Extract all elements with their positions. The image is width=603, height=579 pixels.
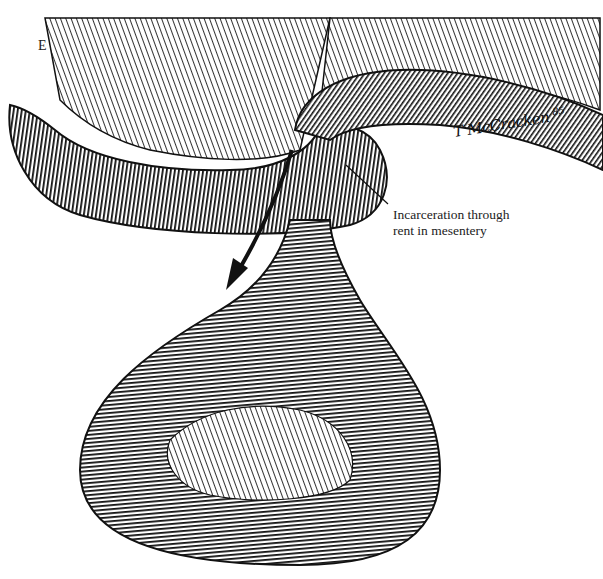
bowel-loop-lower [80, 220, 440, 565]
panel-label: E [38, 38, 47, 54]
mesentery-fan [45, 18, 330, 159]
intestine-illustration [0, 0, 603, 579]
callout-line-2: rent in mesentery [393, 223, 510, 239]
callout-label: Incarceration through rent in mesentery [393, 207, 510, 239]
callout-line-1: Incarceration through [393, 207, 510, 223]
signature-year: 85 [551, 105, 564, 118]
